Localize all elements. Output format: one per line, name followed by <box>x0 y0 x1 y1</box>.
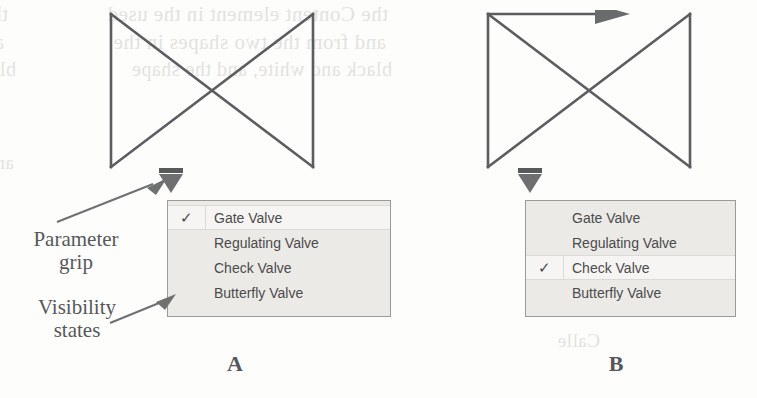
menu-item-label: Gate Valve <box>206 210 282 226</box>
ghost-text-line: the Content element in the sheet <box>0 2 8 27</box>
checkmark-icon <box>168 255 206 280</box>
menu-item-gate-valve[interactable]: ✓ Gate Valve <box>168 205 390 230</box>
visibility-states-menu-a[interactable]: ✓ Gate Valve Regulating Valve Check Valv… <box>167 200 391 317</box>
callout-arrow-parameter-grip <box>55 176 170 226</box>
visibility-states-menu-b[interactable]: Gate Valve Regulating Valve ✓ Check Valv… <box>525 200 736 317</box>
gate-valve-symbol[interactable] <box>108 10 318 175</box>
checkmark-icon: ✓ <box>526 256 564 279</box>
checkmark-icon <box>168 230 206 255</box>
menu-item-gate-valve[interactable]: Gate Valve <box>526 205 735 230</box>
menu-item-butterfly-valve[interactable]: Butterfly Valve <box>526 280 735 305</box>
menu-item-label: Butterfly Valve <box>206 285 303 301</box>
checkmark-icon <box>526 230 564 255</box>
annotation-line: grip <box>6 251 146 274</box>
annotation-line: Parameter <box>6 228 146 251</box>
ghost-text-line: black and white, and the shape <box>0 58 16 81</box>
menu-item-label: Gate Valve <box>564 210 640 226</box>
panel-caption-a: A <box>215 351 255 377</box>
checkmark-icon: ✓ <box>168 206 206 229</box>
flow-direction-arrow <box>488 10 630 24</box>
ghost-text-line: Calle <box>557 330 600 352</box>
menu-item-label: Check Valve <box>206 260 292 276</box>
menu-item-check-valve[interactable]: ✓ Check Valve <box>526 255 735 280</box>
menu-item-label: Butterfly Valve <box>564 285 661 301</box>
figure-canvas: the Content element in the sheet and fro… <box>0 0 757 398</box>
checkmark-icon <box>526 205 564 230</box>
annotation-label-visibility-states: Visibility states <box>2 296 152 341</box>
panel-caption-b: B <box>596 351 636 377</box>
menu-item-regulating-valve[interactable]: Regulating Valve <box>526 230 735 255</box>
menu-item-butterfly-valve[interactable]: Butterfly Valve <box>168 280 390 305</box>
menu-item-label: Regulating Valve <box>564 235 677 251</box>
ghost-text-line: and <box>0 152 14 174</box>
menu-item-label: Regulating Valve <box>206 235 319 251</box>
checkmark-icon <box>526 280 564 305</box>
check-valve-symbol[interactable] <box>485 10 710 175</box>
parameter-grip-icon[interactable] <box>516 168 544 194</box>
menu-item-regulating-valve[interactable]: Regulating Valve <box>168 230 390 255</box>
annotation-line: Visibility <box>2 296 152 319</box>
menu-item-label: Check Valve <box>564 260 650 276</box>
menu-item-check-valve[interactable]: Check Valve <box>168 255 390 280</box>
annotation-label-parameter-grip: Parameter grip <box>6 228 146 273</box>
annotation-line: states <box>2 319 152 342</box>
ghost-text-line: and from the two shapes in the <box>0 30 4 55</box>
